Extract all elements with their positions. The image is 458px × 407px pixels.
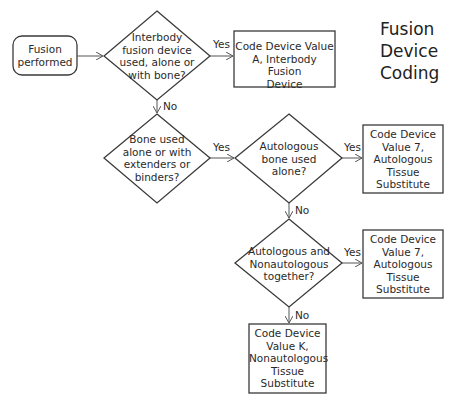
- result-a-label: Code Device Value A, Interbody Fusion De…: [234, 40, 335, 90]
- start-node-label: Fusion performed: [13, 43, 77, 68]
- q4-label: Autologous and Nonautologous together?: [240, 245, 338, 283]
- edge-label-q1-yes: Yes: [213, 38, 230, 50]
- edge-label-q2-yes: Yes: [213, 141, 230, 153]
- edge-label-q1-no: No: [163, 100, 177, 112]
- edge-label-q3-no: No: [295, 204, 309, 216]
- result-7b-label: Code Device Value 7, Autologous Tissue S…: [363, 233, 443, 296]
- q1-label: Interbody fusion device used, alone or w…: [112, 31, 202, 81]
- result-7a-label: Code Device Value 7, Autologous Tissue S…: [363, 128, 443, 191]
- q2-label: Bone used alone or with extenders or bin…: [112, 133, 202, 183]
- result-k-label: Code Device Value K, Nonautologous Tissu…: [249, 327, 326, 390]
- edge-label-q3-yes: Yes: [344, 141, 361, 153]
- q3-label: Autologous bone used alone?: [244, 140, 334, 178]
- edge-label-q4-yes: Yes: [344, 246, 361, 258]
- diagram-title: Fusion Device Coding: [380, 18, 439, 84]
- edge-label-q4-no: No: [295, 309, 309, 321]
